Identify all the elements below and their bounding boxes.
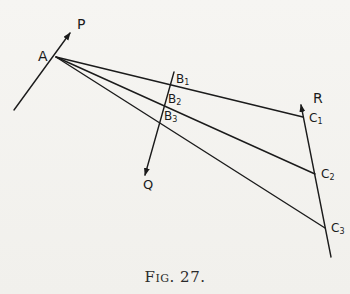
- label-b1-base: B: [176, 72, 184, 86]
- label-b1: B1: [176, 73, 189, 87]
- label-q: Q: [143, 178, 153, 191]
- label-c3-sub: 3: [339, 227, 344, 236]
- label-a: A: [38, 49, 48, 63]
- label-p: P: [77, 17, 85, 31]
- label-b3-base: B: [164, 109, 172, 123]
- label-c1: C1: [309, 112, 322, 126]
- label-r: R: [313, 91, 323, 105]
- label-b1-sub: 1: [184, 78, 189, 87]
- label-b2-base: B: [168, 92, 176, 106]
- label-c2-sub: 2: [329, 173, 334, 182]
- force-line-p: [14, 33, 70, 110]
- label-c1-sub: 1: [317, 117, 322, 126]
- ray-a-c3: [56, 57, 325, 228]
- label-b3: B3: [164, 110, 177, 124]
- label-b3-sub: 3: [172, 115, 177, 124]
- figure-caption: Fig. 27.: [0, 268, 350, 286]
- label-c2: C2: [321, 168, 334, 182]
- label-c3: C3: [331, 222, 344, 236]
- label-b2: B2: [168, 93, 181, 107]
- force-diagram: [0, 0, 350, 294]
- ray-a-c1: [56, 57, 303, 117]
- label-b2-sub: 2: [176, 98, 181, 107]
